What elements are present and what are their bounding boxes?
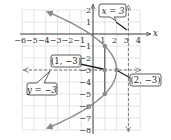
x-tick-label: 4: [136, 36, 141, 45]
svg-text:y = −3: y = −3: [26, 85, 57, 95]
x-tick-label: −2: [62, 36, 74, 45]
y-tick-label: −7: [79, 114, 91, 123]
y-tick-label: −1: [79, 42, 91, 51]
y-tick-label: 1: [86, 18, 91, 27]
svg-text:x = 3: x = 3: [102, 6, 125, 16]
x-tick-label: −6: [14, 36, 26, 45]
callout-y-equals-minus-3: y = −3: [26, 71, 57, 95]
x-tick-label: 2: [112, 36, 117, 45]
point-1-minus-5: [103, 92, 107, 96]
y-tick-label: 2: [86, 6, 91, 15]
svg-text:(2, −3): (2, −3): [131, 75, 161, 85]
callout-point-2-minus-3: (2, −3): [118, 71, 161, 86]
svg-text:(1, −3): (1, −3): [51, 56, 81, 66]
callout-point-1-minus-3: (1, −3): [51, 55, 103, 69]
x-tick-label: −5: [26, 36, 38, 45]
y-tick-label: −4: [79, 78, 91, 87]
x-axis-label: x: [153, 28, 158, 38]
y-tick-label: −8: [79, 126, 91, 135]
point-1-minus-1: [103, 44, 107, 48]
x-tick-label: −4: [38, 36, 50, 45]
parabola-graph: x −6−5−4−3−2−1123421−1−2−3−4−5−6−7−8 x =…: [0, 0, 171, 140]
x-tick-label: −3: [50, 36, 62, 45]
point-1-minus-3: [103, 68, 107, 72]
y-tick-label: −5: [79, 90, 91, 99]
callout-x-equals-3: x = 3: [99, 4, 127, 30]
